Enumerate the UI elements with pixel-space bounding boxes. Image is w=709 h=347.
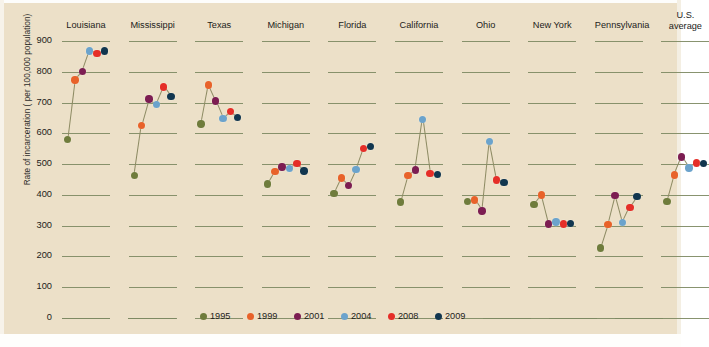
data-point-2008	[693, 159, 700, 166]
y-axis-tick-200: 200	[22, 250, 52, 260]
data-point-2009	[700, 160, 707, 167]
gridline-500	[328, 164, 376, 165]
panel-pennsylvania: Pennsylvania	[595, 0, 643, 347]
legend-item-2009[interactable]: 2009	[435, 311, 465, 321]
data-point-2001	[412, 166, 419, 173]
legend-item-2004[interactable]: 2004	[341, 311, 371, 321]
legend-baseline-rule	[549, 318, 597, 319]
data-point-2004	[352, 166, 359, 173]
legend-label: 2001	[304, 311, 324, 321]
gridline-900	[195, 41, 243, 42]
gridline-200	[528, 256, 576, 257]
y-axis-tick-600: 600	[22, 127, 52, 137]
gridline-100	[129, 287, 177, 288]
panel-louisiana: Louisiana	[62, 0, 110, 347]
connector-segment	[422, 119, 431, 173]
data-point-2004	[552, 218, 559, 225]
y-axis-tick-900: 900	[22, 35, 52, 45]
data-point-1999	[471, 196, 478, 203]
gridline-100	[395, 287, 443, 288]
legend-swatch-2004	[341, 313, 348, 320]
legend-item-2001[interactable]: 2001	[294, 311, 324, 321]
gridline-600	[328, 133, 376, 134]
gridline-700	[528, 103, 576, 104]
data-point-2001	[611, 192, 618, 199]
gridline-100	[661, 287, 709, 288]
panel-title: New York	[528, 20, 576, 31]
panel-ohio: Ohio	[462, 0, 510, 347]
gridline-800	[595, 72, 643, 73]
data-point-2001	[478, 207, 485, 214]
data-point-2001	[145, 95, 152, 102]
data-point-2008	[426, 170, 433, 177]
connector-segment	[67, 80, 76, 140]
data-point-2004	[419, 116, 426, 123]
gridline-500	[595, 164, 643, 165]
legend-label: 2004	[351, 311, 371, 321]
data-point-2009	[633, 193, 640, 200]
gridline-100	[328, 287, 376, 288]
data-point-1999	[71, 76, 78, 83]
gridline-800	[395, 72, 443, 73]
data-point-2008	[493, 176, 500, 183]
gridline-200	[661, 256, 709, 257]
legend-swatch-1995	[200, 313, 207, 320]
panel-title: California	[395, 20, 443, 31]
data-point-2001	[212, 97, 219, 104]
legend-label: 1999	[257, 311, 277, 321]
panel-michigan: Michigan	[262, 0, 310, 347]
data-point-2004	[286, 165, 293, 172]
data-point-1995	[264, 180, 271, 187]
data-point-1995	[131, 172, 138, 179]
gridline-500	[62, 164, 110, 165]
gridline-600	[462, 133, 510, 134]
gridline-900	[62, 41, 110, 42]
gridline-200	[195, 256, 243, 257]
legend-label: 2009	[445, 311, 465, 321]
panel-title: Texas	[195, 20, 243, 31]
gridline-400	[528, 195, 576, 196]
y-axis-title: Rate of incarceration ( per 100,000 popu…	[23, 0, 32, 215]
legend-item-2008[interactable]: 2008	[388, 311, 418, 321]
y-axis-tick-500: 500	[22, 158, 52, 168]
panel-florida: Florida	[328, 0, 376, 347]
gridline-700	[195, 103, 243, 104]
gridline-300	[595, 226, 643, 227]
gridline-300	[462, 226, 510, 227]
y-axis-tick-100: 100	[22, 281, 52, 291]
legend-baseline-rule	[483, 318, 531, 319]
data-point-1995	[530, 201, 537, 208]
gridline-900	[328, 41, 376, 42]
gridline-900	[528, 41, 576, 42]
chart-legend: 199519992001200420082009	[0, 311, 681, 325]
legend-item-1995[interactable]: 1995	[200, 311, 230, 321]
data-point-1999	[338, 174, 345, 181]
data-point-1995	[64, 136, 71, 143]
data-point-2001	[545, 220, 552, 227]
data-point-2004	[685, 164, 692, 171]
panel-title: Florida	[328, 20, 376, 31]
gridline-400	[462, 195, 510, 196]
data-point-2009	[234, 114, 241, 121]
data-point-1995	[330, 190, 337, 197]
gridline-900	[595, 41, 643, 42]
legend-item-1999[interactable]: 1999	[247, 311, 277, 321]
gridline-900	[129, 41, 177, 42]
panel-title: Pennsylvania	[595, 20, 643, 31]
gridline-100	[62, 287, 110, 288]
gridline-600	[595, 133, 643, 134]
gridline-700	[262, 103, 310, 104]
legend-swatch-1999	[247, 313, 254, 320]
data-point-2004	[153, 101, 160, 108]
gridline-600	[129, 133, 177, 134]
data-point-1999	[138, 122, 145, 129]
data-point-2008	[626, 204, 633, 211]
y-axis-tick-700: 700	[22, 97, 52, 107]
y-axis-tick-800: 800	[22, 66, 52, 76]
panel-title: Michigan	[262, 20, 310, 31]
gridline-100	[595, 287, 643, 288]
legend-swatch-2008	[388, 313, 395, 320]
gridline-400	[195, 195, 243, 196]
data-point-2001	[278, 163, 285, 170]
